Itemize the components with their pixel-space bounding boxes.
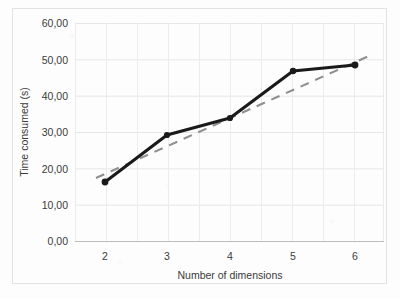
y-tick-label-10: 10,00 (42, 199, 68, 211)
data-point-x3 (164, 132, 170, 138)
y-tick-label-20: 20,00 (42, 163, 68, 175)
x-tick-label-6: 6 (352, 250, 358, 262)
y-tick-label-60: 60,00 (42, 17, 68, 29)
data-point-x2 (102, 179, 109, 186)
y-tick-label-0: 0,00 (48, 235, 69, 247)
horizontal-gridlines (75, 24, 384, 206)
y-tick-label-40: 40,00 (42, 90, 68, 102)
chart-figure: 60,00 50,00 40,00 30,00 20,00 10,00 0,00… (0, 0, 400, 299)
y-tick-label-50: 50,00 (42, 54, 68, 66)
data-point-x6 (352, 62, 359, 69)
data-point-x5 (290, 68, 296, 74)
data-point-x4 (227, 115, 233, 121)
x-tick-label-5: 5 (290, 250, 296, 262)
x-tick-label-3: 3 (164, 250, 170, 262)
x-axis-tick-labels: 2 3 4 5 6 (102, 250, 358, 262)
line-chart-plot: 60,00 50,00 40,00 30,00 20,00 10,00 0,00… (0, 0, 400, 299)
y-axis-tick-labels: 60,00 50,00 40,00 30,00 20,00 10,00 0,00 (42, 17, 68, 247)
y-tick-label-30: 30,00 (42, 126, 68, 138)
x-axis-title: Number of dimensions (177, 269, 282, 281)
x-tick-label-4: 4 (227, 250, 233, 262)
x-tick-label-2: 2 (102, 250, 108, 262)
y-axis-title: Time consumed (s) (18, 87, 30, 176)
